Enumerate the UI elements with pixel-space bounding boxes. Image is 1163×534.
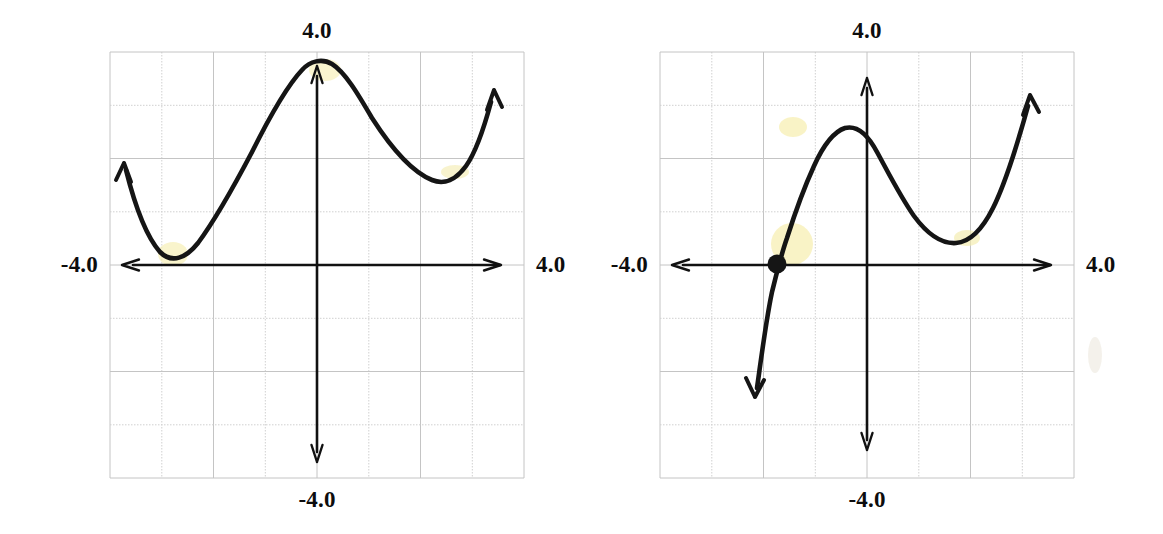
curve-left [116, 61, 502, 259]
x-axis-right [672, 260, 1051, 271]
figure-root: 4.0 -4.0 -4.0 4.0 [0, 0, 1163, 534]
graph-right-label-top: 4.0 [852, 18, 881, 44]
graph-left-label-bottom: -4.0 [298, 487, 335, 513]
graph-right-label-bottom: -4.0 [848, 487, 885, 513]
curve-right-end-arrowhead [1023, 95, 1039, 115]
x-intercept-dot [768, 255, 787, 274]
graph-right-panel: 4.0 -4.0 -4.0 4.0 [550, 0, 1110, 534]
graph-right-label-right: 4.0 [1086, 252, 1115, 278]
graph-right-label-left: -4.0 [611, 252, 648, 278]
curve-left-start-arrowhead [116, 163, 131, 182]
graph-left-label-top: 4.0 [302, 18, 331, 44]
graph-left-label-left: -4.0 [61, 252, 98, 278]
graph-left-panel: 4.0 -4.0 -4.0 4.0 [0, 0, 560, 534]
curve-left-end-arrowhead [487, 90, 502, 110]
